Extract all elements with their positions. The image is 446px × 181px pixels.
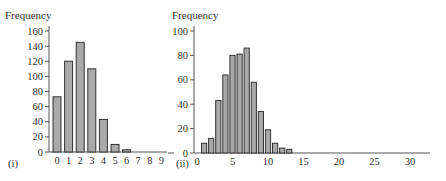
panel-label: (i): [8, 158, 18, 170]
bar: [216, 101, 221, 153]
figure: Frequency0204060801001201401600123456789…: [0, 0, 446, 181]
x-tick-label: 5: [230, 156, 235, 167]
bar: [244, 48, 249, 153]
y-tick-label: 140: [27, 41, 43, 52]
bar: [230, 55, 235, 153]
y-tick-label: 100: [27, 71, 43, 82]
x-tick-label: 30: [405, 156, 416, 167]
y-tick-label: 40: [33, 116, 44, 127]
x-tick-label: 20: [334, 156, 345, 167]
bar: [237, 54, 242, 153]
y-axis-title: Frequency: [172, 9, 219, 21]
bar: [123, 150, 131, 152]
x-tick-label: 0: [54, 155, 59, 166]
y-tick-label: 20: [178, 123, 189, 134]
bar: [258, 112, 263, 153]
x-tick-label: 9: [159, 155, 164, 166]
x-tick-label: 8: [147, 155, 152, 166]
x-tick-label: 7: [136, 155, 141, 166]
chart-panel-i: Frequency0204060801001201401600123456789…: [5, 9, 167, 170]
bar: [53, 97, 61, 152]
bar: [88, 69, 96, 152]
x-tick-label: 25: [369, 156, 380, 167]
y-tick-label: 160: [27, 26, 43, 37]
y-tick-label: 100: [172, 26, 188, 37]
bar: [111, 144, 119, 152]
y-tick-label: 0: [38, 147, 43, 158]
bar: [265, 130, 270, 153]
bar: [65, 61, 73, 152]
x-tick-label: 0: [194, 156, 199, 167]
x-tick-label: 3: [89, 155, 94, 166]
chart-panel-ii: Frequency020406080100051015202530(ii): [168, 9, 430, 170]
y-tick-label: 80: [33, 86, 44, 97]
y-tick-label: 60: [33, 101, 44, 112]
y-tick-label: 0: [183, 148, 188, 159]
x-tick-label: 15: [298, 156, 309, 167]
y-tick-label: 80: [178, 50, 189, 61]
x-tick-label: 5: [112, 155, 117, 166]
bar: [202, 143, 207, 153]
x-tick-label: 2: [78, 155, 83, 166]
panel-label: (ii): [176, 158, 189, 170]
y-axis-title: Frequency: [5, 9, 52, 21]
y-tick-label: 60: [178, 74, 189, 85]
y-tick-label: 120: [27, 56, 43, 67]
bar: [273, 143, 278, 153]
bar: [209, 138, 214, 153]
bar: [76, 42, 84, 152]
y-tick-label: 20: [33, 131, 44, 142]
x-tick-label: 6: [124, 155, 129, 166]
x-tick-label: 4: [101, 155, 107, 166]
x-tick-label: 1: [66, 155, 71, 166]
bar: [287, 149, 292, 153]
bar: [280, 148, 285, 153]
bar: [223, 75, 228, 153]
x-tick-label: 10: [263, 156, 274, 167]
bar: [251, 82, 256, 153]
bar: [99, 119, 107, 152]
y-tick-label: 40: [178, 99, 189, 110]
